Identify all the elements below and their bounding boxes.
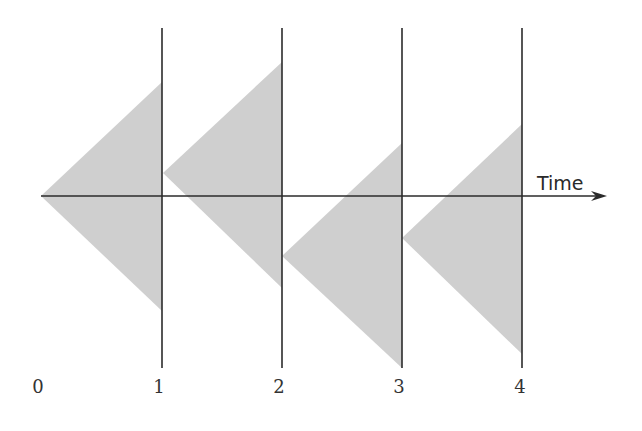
shaded-triangle-4: [402, 124, 522, 354]
time-axis-label: Time: [537, 174, 584, 193]
diagram-canvas: [0, 0, 642, 431]
tick-label-4: 4: [514, 378, 525, 396]
tick-label-0: 0: [32, 378, 43, 396]
shaded-triangle-2: [163, 62, 282, 288]
tick-label-1: 1: [153, 378, 164, 396]
time-diagram: Time 0 1 2 3 4: [0, 0, 642, 431]
shaded-triangle-3: [282, 143, 402, 368]
tick-label-2: 2: [273, 378, 284, 396]
tick-label-3: 3: [393, 378, 404, 396]
